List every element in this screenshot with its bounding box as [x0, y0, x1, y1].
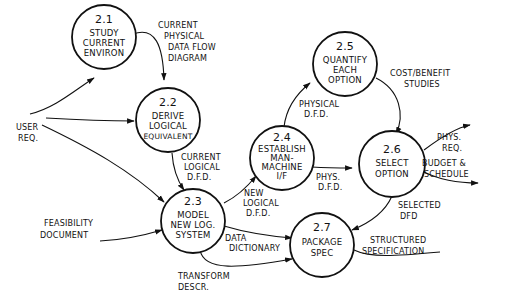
svg-text:REQ.: REQ.: [18, 134, 38, 143]
svg-text:DATA: DATA: [225, 234, 247, 243]
process-2-2: 2.2 DERIVE LOGICAL EQUIVALENT: [136, 88, 200, 152]
flow-feasibility-to-2-3: [100, 230, 162, 241]
svg-text:D.F.D.: D.F.D.: [246, 209, 270, 218]
svg-text:CURRENT: CURRENT: [83, 38, 126, 48]
svg-text:REQ.: REQ.: [442, 144, 462, 153]
svg-text:LOGICAL: LOGICAL: [243, 199, 279, 208]
process-2-1: 2.1 STUDY CURRENT ENVIRON: [72, 5, 136, 69]
svg-text:STRUCTURED: STRUCTURED: [370, 236, 426, 245]
svg-text:OPTION: OPTION: [375, 169, 409, 179]
svg-text:SELECTED: SELECTED: [398, 201, 441, 210]
label-new-logical-dfd: NEW LOGICAL D.F.D.: [243, 189, 279, 218]
process-2-3: 2.3 MODEL NEW LOG. SYSTEM: [161, 189, 225, 253]
svg-text:D.F.D.: D.F.D.: [318, 183, 342, 192]
svg-text:D.F.D.: D.F.D.: [304, 110, 328, 119]
process-2-4: 2.4 ESTABLISH MAN- MACHINE I/F: [250, 126, 314, 190]
svg-text:SCHEDULE: SCHEDULE: [424, 170, 469, 179]
label-structured-specification: STRUCTURED SPECIFICATION: [362, 236, 426, 256]
svg-text:PACKAGE: PACKAGE: [302, 237, 343, 247]
svg-text:STUDIES: STUDIES: [404, 80, 440, 89]
svg-text:STUDY: STUDY: [89, 28, 119, 38]
svg-text:SPEC: SPEC: [311, 248, 334, 258]
process-2-6: 2.6 SELECT OPTION: [359, 131, 425, 197]
svg-text:2.6: 2.6: [383, 143, 401, 156]
svg-text:CURRENT: CURRENT: [158, 21, 198, 30]
svg-text:PHYS.: PHYS.: [316, 173, 340, 182]
svg-text:USER: USER: [16, 123, 39, 132]
svg-text:2.7: 2.7: [313, 221, 331, 234]
process-2-5: 2.5 QUANTIFY EACH OPTION: [313, 32, 377, 96]
svg-text:MODEL: MODEL: [177, 210, 209, 220]
svg-text:SYSTEM: SYSTEM: [175, 230, 210, 240]
label-physical-dfd: PHYSICAL D.F.D.: [299, 100, 340, 119]
svg-text:LOGICAL: LOGICAL: [149, 121, 187, 131]
svg-text:PHYSICAL: PHYSICAL: [299, 100, 340, 109]
label-phys-dfd: PHYS. D.F.D.: [316, 173, 342, 192]
svg-text:NEW LOG.: NEW LOG.: [171, 220, 216, 230]
label-phys-req: PHYS. REQ.: [437, 133, 462, 153]
svg-text:DIAGRAM: DIAGRAM: [168, 54, 207, 63]
svg-text:DOCUMENT: DOCUMENT: [40, 231, 88, 240]
svg-text:SPECIFICATION: SPECIFICATION: [362, 247, 424, 256]
svg-text:PHYS.: PHYS.: [437, 133, 461, 142]
svg-text:DERIVE: DERIVE: [152, 111, 185, 121]
label-budget-schedule: BUDGET & SCHEDULE: [422, 159, 469, 179]
svg-text:FEASIBILITY: FEASIBILITY: [44, 219, 93, 228]
svg-text:LOGICAL: LOGICAL: [184, 163, 220, 172]
label-data-dictionary: DATA DICTIONARY: [225, 234, 280, 253]
data-flow-diagram: 2.1 STUDY CURRENT ENVIRON 2.2 DERIVE LOG…: [0, 0, 506, 303]
svg-text:DICTIONARY: DICTIONARY: [229, 244, 280, 253]
external-feasibility-document: FEASIBILITY DOCUMENT: [40, 219, 93, 240]
svg-text:NEW: NEW: [244, 189, 264, 198]
flow-2-1-to-2-2: [133, 32, 164, 80]
flow-user-req-to-2-1: [30, 78, 94, 114]
svg-text:SELECT: SELECT: [375, 158, 409, 168]
svg-text:BUDGET &: BUDGET &: [422, 159, 466, 168]
svg-text:2.2: 2.2: [159, 96, 177, 109]
flow-2-4-to-2-6: [312, 167, 352, 168]
svg-text:2.1: 2.1: [95, 13, 113, 26]
svg-text:DFD: DFD: [400, 212, 418, 221]
svg-text:D.F.D.: D.F.D.: [187, 173, 211, 182]
label-current-logical-dfd: CURRENT LOGICAL D.F.D.: [181, 153, 221, 182]
external-user-req: USER REQ.: [16, 123, 39, 143]
svg-text:EACH: EACH: [333, 65, 357, 75]
svg-text:2.3: 2.3: [184, 195, 202, 208]
svg-text:DESCR.: DESCR.: [178, 283, 209, 292]
svg-text:ENVIRON: ENVIRON: [84, 48, 124, 58]
svg-text:TRANSFORM: TRANSFORM: [177, 272, 230, 281]
svg-text:QUANTIFY: QUANTIFY: [323, 55, 368, 65]
svg-text:2.4: 2.4: [273, 131, 291, 144]
flow-2-5-to-2-6: [376, 78, 400, 134]
svg-text:I/F: I/F: [277, 171, 288, 181]
svg-text:EQUIVALENT: EQUIVALENT: [143, 132, 192, 141]
label-transform-descr: TRANSFORM DESCR.: [177, 272, 230, 292]
svg-text:DATA FLOW: DATA FLOW: [168, 43, 216, 52]
svg-text:PHYSICAL: PHYSICAL: [164, 32, 205, 41]
flow-user-req-to-2-2: [46, 118, 134, 121]
process-2-7: 2.7 PACKAGE SPEC: [290, 213, 354, 277]
flow-2-6-to-2-7: [352, 196, 392, 230]
label-current-physical-dfd: CURRENT PHYSICAL DATA FLOW DIAGRAM: [158, 21, 216, 63]
svg-text:OPTION: OPTION: [328, 75, 362, 85]
label-selected-dfd: SELECTED DFD: [398, 201, 441, 221]
svg-text:2.5: 2.5: [336, 40, 354, 53]
svg-text:CURRENT: CURRENT: [181, 153, 221, 162]
label-cost-benefit-studies: COST/BENEFIT STUDIES: [390, 69, 450, 89]
svg-text:COST/BENEFIT: COST/BENEFIT: [390, 69, 450, 78]
